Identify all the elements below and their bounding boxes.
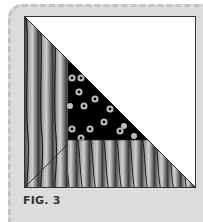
figure-caption: FIG. 3 xyxy=(23,194,61,207)
quilt-block-diagram xyxy=(24,16,196,188)
